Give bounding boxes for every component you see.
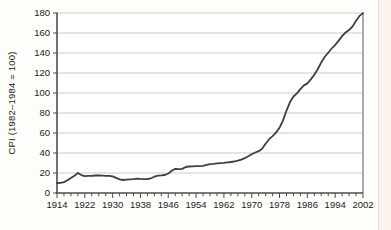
x-tick-label-2002: 2002 (352, 199, 373, 210)
y-tick-label-60: 60 (39, 127, 50, 138)
x-tick-label-1986: 1986 (297, 199, 318, 210)
x-tick-label-1994: 1994 (325, 199, 346, 210)
x-tick-label-1930: 1930 (102, 199, 123, 210)
page-edge-strip (378, 0, 391, 230)
plot-area (57, 13, 363, 193)
y-tick-label-120: 120 (34, 67, 50, 78)
y-tick-label-140: 140 (34, 47, 50, 58)
x-tick-label-1938: 1938 (130, 199, 151, 210)
x-tick-label-1954: 1954 (186, 199, 207, 210)
y-tick-label-160: 160 (34, 27, 50, 38)
y-axis-title: CPI (1982–1984 = 100) (6, 51, 17, 154)
x-tick-label-1946: 1946 (158, 199, 179, 210)
y-tick-label-40: 40 (39, 147, 50, 158)
y-tick-label-80: 80 (39, 107, 50, 118)
y-tick-label-0: 0 (45, 187, 50, 198)
x-tick-label-1970: 1970 (241, 199, 262, 210)
x-tick-label-1922: 1922 (74, 199, 95, 210)
cpi-line-chart: 0204060801001201401601801914192219301938… (0, 0, 391, 230)
y-tick-label-180: 180 (34, 7, 50, 18)
x-tick-label-1962: 1962 (213, 199, 234, 210)
x-tick-label-1978: 1978 (269, 199, 290, 210)
y-tick-label-100: 100 (34, 87, 50, 98)
cpi-chart-figure: 0204060801001201401601801914192219301938… (0, 0, 391, 230)
x-tick-label-1914: 1914 (46, 199, 67, 210)
y-tick-label-20: 20 (39, 167, 50, 178)
